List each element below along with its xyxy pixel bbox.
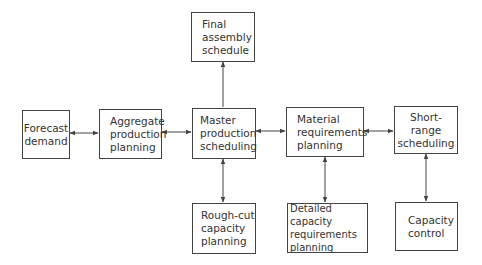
node-short-range-scheduling: Short-range scheduling [394,106,458,154]
node-label: Rough-cut capacity planning [201,209,255,248]
node-label: Forecast demand [24,122,68,148]
node-detailed-capacity-requirements-planning: Detailed capacity requirements planning [287,203,368,253]
node-master-production-scheduling: Master production scheduling [192,108,256,159]
node-label: Aggregate production planning [110,115,166,154]
node-forecast-demand: Forecast demand [22,110,70,159]
node-label: Material requirements planning [297,113,367,152]
node-capacity-control: Capacity control [395,202,458,251]
node-label: Capacity control [408,214,454,240]
node-label: Master production scheduling [200,114,257,153]
node-rough-cut-capacity-planning: Rough-cut capacity planning [192,203,256,254]
diagram-canvas: Forecast demand Aggregate production pla… [0,0,482,265]
node-label: Detailed capacity requirements planning [290,202,367,254]
node-aggregate-production-planning: Aggregate production planning [99,109,162,159]
node-label: Short-range scheduling [395,111,457,150]
node-label: Final assembly schedule [202,18,252,57]
node-material-requirements-planning: Material requirements planning [286,107,364,157]
node-final-assembly-schedule: Final assembly schedule [191,12,255,62]
